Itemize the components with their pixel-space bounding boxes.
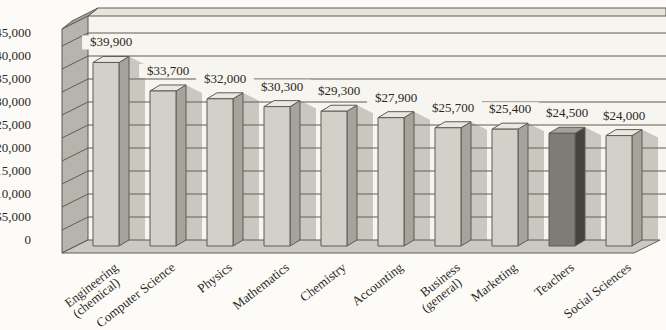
value-label-computer-science: $33,700 xyxy=(147,63,189,78)
value-label-chemistry: $29,300 xyxy=(318,83,360,98)
value-label-marketing: $25,400 xyxy=(489,101,531,116)
bar-physics-side xyxy=(233,93,243,246)
left-wall xyxy=(62,16,88,253)
bar-social-sciences-side xyxy=(632,130,642,246)
bar-mathematics-front xyxy=(264,107,290,246)
bar-shadow-physics xyxy=(243,93,259,240)
value-label-physics: $32,000 xyxy=(204,71,246,86)
y-tick-label-45000: $45,000 xyxy=(0,25,31,40)
bar-shadow-mathematics xyxy=(300,101,316,240)
value-label-business-general: $25,700 xyxy=(432,100,474,115)
bar-chemistry-front xyxy=(321,111,347,246)
bar-computer-science-front xyxy=(150,91,176,246)
y-tick-label-40000: $40,000 xyxy=(0,48,31,63)
category-label-accounting: Accounting xyxy=(349,259,406,308)
category-label-mathematics: Mathematics xyxy=(230,260,292,313)
category-label-teachers: Teachers xyxy=(531,260,576,300)
bar-shadow-teachers xyxy=(585,127,601,240)
bar-social-sciences-front xyxy=(606,136,632,246)
bar-chemistry-side xyxy=(347,105,357,246)
bar-business-general-side xyxy=(461,122,471,246)
y-tick-label-25000: $25,000 xyxy=(0,117,31,132)
wall-top-bevel xyxy=(88,8,666,16)
value-label-mathematics: $30,300 xyxy=(261,79,303,94)
category-label-marketing: Marketing xyxy=(468,259,520,304)
value-label-teachers: $24,500 xyxy=(546,105,588,120)
bar-business-general-front xyxy=(435,128,461,246)
bar-shadow-marketing xyxy=(528,123,544,240)
bar-accounting-front xyxy=(378,118,404,246)
bar-engineering-chemical-front xyxy=(93,62,119,246)
y-tick-label-15000: $15,000 xyxy=(0,163,31,178)
bar-teachers-front xyxy=(549,133,575,246)
salary-bar-chart-figure: $39,900$33,700$32,000$30,300$29,300$27,9… xyxy=(0,0,666,330)
y-tick-label-0: 0 xyxy=(25,232,32,247)
bar-shadow-engineering-chemical xyxy=(129,56,145,240)
bar-shadow-social-sciences xyxy=(642,130,658,240)
y-tick-label-10000: $10,000 xyxy=(0,186,31,201)
bar-shadow-computer-science xyxy=(186,85,202,240)
value-label-engineering-chemical: $39,900 xyxy=(90,34,132,49)
bar-teachers-side xyxy=(575,127,585,246)
salary-bar-chart-canvas: $39,900$33,700$32,000$30,300$29,300$27,9… xyxy=(0,0,666,330)
y-tick-label-35000: $35,000 xyxy=(0,71,31,86)
bar-physics-front xyxy=(207,99,233,246)
value-label-social-sciences: $24,000 xyxy=(603,108,645,123)
bar-marketing-front xyxy=(492,129,518,246)
bar-shadow-accounting xyxy=(414,112,430,240)
bar-accounting-side xyxy=(404,112,414,246)
bar-computer-science-side xyxy=(176,85,186,246)
category-label-physics: Physics xyxy=(194,260,235,296)
bar-shadow-business-general xyxy=(471,122,487,240)
y-tick-label-30000: $30,000 xyxy=(0,94,31,109)
y-tick-label-5000: $5,000 xyxy=(0,209,31,224)
category-label-business-general: Business(general) xyxy=(410,260,471,316)
bar-mathematics-side xyxy=(290,101,300,246)
value-label-accounting: $27,900 xyxy=(375,90,417,105)
bar-shadow-chemistry xyxy=(357,105,373,240)
category-label-chemistry: Chemistry xyxy=(297,259,349,304)
bar-engineering-chemical-side xyxy=(119,56,129,246)
bar-marketing-side xyxy=(518,123,528,246)
y-tick-label-20000: $20,000 xyxy=(0,140,31,155)
